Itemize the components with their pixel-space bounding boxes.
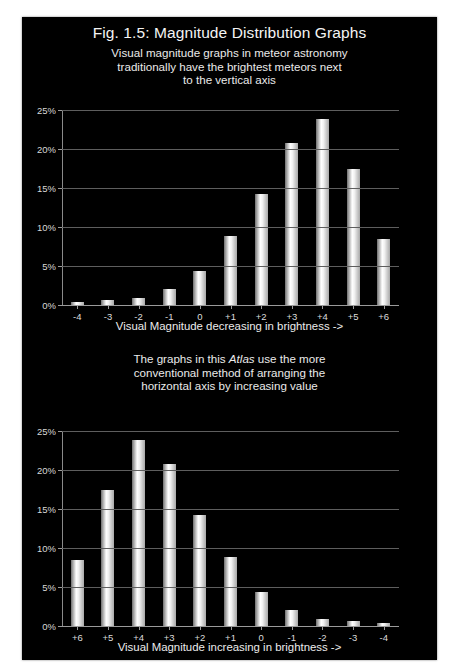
x-tick-mark (384, 626, 385, 630)
y-tick-label-5%: 5% (42, 261, 56, 272)
bar-slot-+1: +1 (215, 110, 246, 305)
x-axis-title-bottom: Visual Magnitude increasing in brightnes… (22, 641, 437, 653)
gridline-10% (62, 548, 399, 549)
y-tick-mark (58, 305, 62, 306)
gridline-5% (62, 266, 399, 267)
y-tick-label-0%: 0% (42, 300, 56, 311)
x-tick-mark (353, 626, 354, 630)
gridline-25% (62, 431, 399, 432)
atlas-emphasis: Atlas (229, 352, 255, 365)
bar-slot-+4: +4 (123, 431, 154, 626)
bar-slot-+3: +3 (276, 110, 307, 305)
bar-slot--3: -3 (338, 431, 369, 626)
bar-slot-0: 0 (246, 431, 277, 626)
bar-+6 (377, 239, 390, 305)
bar--1 (285, 610, 298, 626)
bar-slot--1: -1 (276, 431, 307, 626)
chart-panel-bottom: The graphs in this Atlas use the more co… (22, 339, 437, 660)
y-tick-mark (58, 470, 62, 471)
plot-area-top: -4-3-2-10+1+2+3+4+5+6 0%5%10%15%20%25% (62, 110, 399, 305)
bar-slot--2: -2 (123, 110, 154, 305)
y-tick-mark (58, 227, 62, 228)
x-tick-mark (231, 305, 232, 309)
bar-+3 (285, 143, 298, 305)
figure-container: Fig. 1.5: Magnitude Distribution Graphs … (22, 17, 437, 660)
gridline-20% (62, 470, 399, 471)
y-tick-mark (58, 188, 62, 189)
bar-slot-+5: +5 (338, 110, 369, 305)
bar-slot-+2: +2 (185, 431, 216, 626)
y-tick-label-0%: 0% (42, 621, 56, 632)
x-tick-mark (261, 305, 262, 309)
bottom-subtitle-line-1: The graphs in this Atlas use the more (22, 352, 437, 366)
bar-slot-+6: +6 (62, 431, 93, 626)
bar--2 (316, 619, 329, 626)
top-subtitle-line-2: traditionally have the brightest meteors… (22, 60, 437, 74)
x-tick-mark (77, 626, 78, 630)
gridline-5% (62, 587, 399, 588)
bar-+1 (224, 236, 237, 305)
x-tick-mark (139, 305, 140, 309)
top-subtitle-line-3: to the vertical axis (22, 73, 437, 87)
y-tick-mark (58, 266, 62, 267)
y-tick-label-25%: 25% (37, 105, 56, 116)
top-panel-headings: Fig. 1.5: Magnitude Distribution Graphs … (22, 17, 437, 87)
gridline-25% (62, 110, 399, 111)
top-subtitle-line-1: Visual magnitude graphs in meteor astron… (22, 46, 437, 60)
y-tick-label-15%: 15% (37, 504, 56, 515)
bar-slot-+2: +2 (246, 110, 277, 305)
y-tick-mark (58, 149, 62, 150)
bottom-subtitle-line-2: conventional method of arranging the (22, 366, 437, 380)
gridline-15% (62, 188, 399, 189)
bar-series-bottom: +6+5+4+3+2+10-1-2-3-4 (62, 431, 399, 626)
bar-slot-0: 0 (185, 110, 216, 305)
bar-slot--2: -2 (307, 431, 338, 626)
bar-+4 (316, 119, 329, 305)
bar-+4 (132, 440, 145, 626)
y-tick-mark (58, 431, 62, 432)
y-tick-mark (58, 110, 62, 111)
top-panel-subtitle: Visual magnitude graphs in meteor astron… (22, 43, 437, 87)
x-tick-mark (169, 626, 170, 630)
x-tick-mark (231, 626, 232, 630)
y-tick-label-20%: 20% (37, 144, 56, 155)
bottom-panel-subtitle: The graphs in this Atlas use the more co… (22, 345, 437, 393)
x-tick-mark (261, 626, 262, 630)
x-tick-mark (292, 626, 293, 630)
y-tick-label-25%: 25% (37, 426, 56, 437)
bar-0 (255, 592, 268, 626)
y-tick-label-5%: 5% (42, 582, 56, 593)
bar-+2 (255, 194, 268, 305)
y-tick-mark (58, 548, 62, 549)
bottom-subtitle-line-1-a: The graphs in this (133, 352, 228, 365)
x-tick-mark (353, 305, 354, 309)
x-tick-mark (384, 305, 385, 309)
bar-slot--4: -4 (368, 431, 399, 626)
bar-0 (193, 271, 206, 305)
y-tick-label-10%: 10% (37, 222, 56, 233)
y-tick-mark (58, 587, 62, 588)
gridline-10% (62, 227, 399, 228)
chart-panel-top: Fig. 1.5: Magnitude Distribution Graphs … (22, 17, 437, 339)
bar-slot-+1: +1 (215, 431, 246, 626)
bar-slot-+4: +4 (307, 110, 338, 305)
bar-slot--1: -1 (154, 110, 185, 305)
x-tick-mark (200, 305, 201, 309)
x-axis-title-top: Visual Magnitude decreasing in brightnes… (22, 320, 437, 332)
x-tick-mark (322, 305, 323, 309)
bar--2 (132, 298, 145, 305)
bar-+1 (224, 557, 237, 626)
y-tick-label-15%: 15% (37, 183, 56, 194)
figure-title: Fig. 1.5: Magnitude Distribution Graphs (22, 23, 437, 43)
y-tick-mark (58, 626, 62, 627)
page-root: Fig. 1.5: Magnitude Distribution Graphs … (0, 0, 457, 672)
x-tick-mark (77, 305, 78, 309)
x-tick-mark (322, 626, 323, 630)
x-tick-mark (139, 626, 140, 630)
y-tick-mark (58, 509, 62, 510)
bar-slot-+6: +6 (368, 110, 399, 305)
gridline-15% (62, 509, 399, 510)
x-tick-mark (200, 626, 201, 630)
x-tick-mark (108, 305, 109, 309)
plot-area-bottom: +6+5+4+3+2+10-1-2-3-4 0%5%10%15%20%25% (62, 431, 399, 626)
